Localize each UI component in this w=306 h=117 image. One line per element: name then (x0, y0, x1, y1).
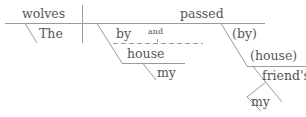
prep2-word: (by) (232, 28, 257, 41)
subject-modifier-line (25, 24, 37, 44)
prep1-object-modifier-word: my (157, 67, 176, 80)
prep2-object-word: (house) (250, 50, 297, 63)
subject-modifier-word: The (39, 28, 63, 41)
conjunction-word: and (148, 28, 163, 36)
subject-word: wolves (22, 8, 65, 21)
prep1-object-modifier-line (143, 64, 156, 81)
possessive-modifier-word: my (251, 96, 270, 109)
prep2-object-modifier-word: friend's (262, 70, 306, 83)
prep1-object-word: house (127, 48, 164, 61)
verb-word: passed (180, 8, 224, 21)
prep1-word: by (116, 28, 131, 41)
